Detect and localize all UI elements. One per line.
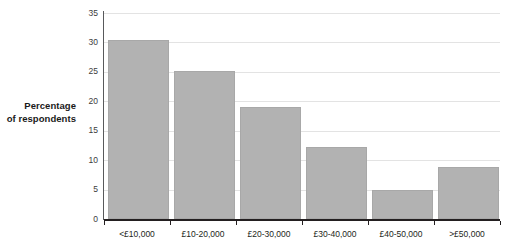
y-tick-label: 30 <box>76 38 98 47</box>
x-tick-mark <box>500 221 501 225</box>
bar-chart: Percentage of respondents 05101520253035… <box>0 0 507 249</box>
y-axis-title: Percentage of respondents <box>0 100 76 125</box>
x-tick-mark <box>368 221 369 225</box>
y-tick-label: 5 <box>76 185 98 194</box>
y-tick-label: 25 <box>76 67 98 76</box>
y-axis-title-line-2: of respondents <box>0 113 76 126</box>
y-tick-label: 0 <box>76 215 98 224</box>
x-tick-mark <box>434 221 435 225</box>
x-tick-mark <box>104 221 105 225</box>
bar[interactable] <box>438 167 499 219</box>
x-tick-label: £30-40,000 <box>302 229 368 239</box>
x-tick-label: <£10,000 <box>104 229 170 239</box>
x-tick-label: £10-20,000 <box>170 229 236 239</box>
y-axis-line <box>103 11 104 220</box>
gridline-35 <box>104 13 500 14</box>
bar[interactable] <box>372 190 433 219</box>
x-tick-label: >£50,000 <box>434 229 500 239</box>
x-tick-mark <box>236 221 237 225</box>
bar[interactable] <box>174 71 235 219</box>
bar[interactable] <box>240 107 301 219</box>
y-tick-label: 10 <box>76 156 98 165</box>
y-tick-label: 15 <box>76 126 98 135</box>
y-tick-label: 35 <box>76 9 98 18</box>
bar[interactable] <box>306 147 367 219</box>
y-axis-title-line-1: Percentage <box>0 100 76 113</box>
x-tick-mark <box>302 221 303 225</box>
y-tick-label: 20 <box>76 97 98 106</box>
x-tick-mark <box>170 221 171 225</box>
bar[interactable] <box>108 40 169 219</box>
plot-area <box>104 13 500 219</box>
x-tick-label: £20-30,000 <box>236 229 302 239</box>
x-tick-label: £40-50,000 <box>368 229 434 239</box>
